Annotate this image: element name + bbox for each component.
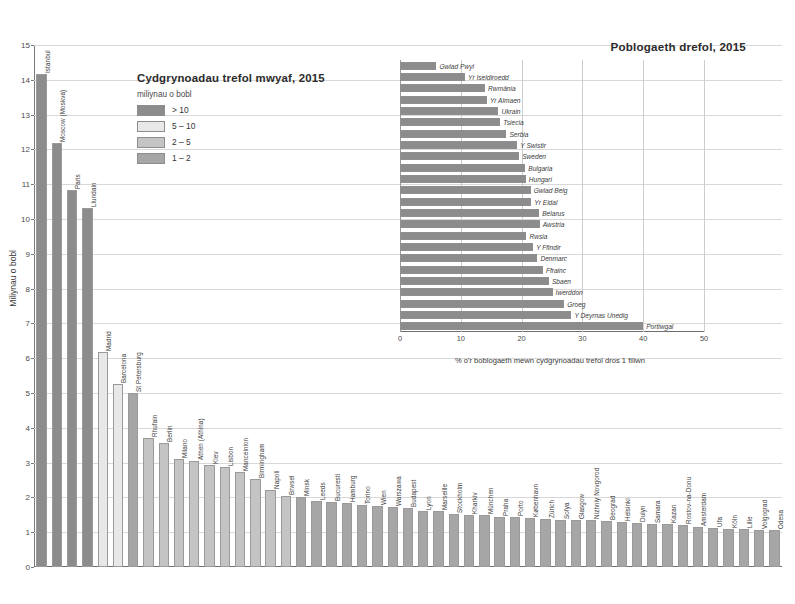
bar-label: Warszawa bbox=[395, 476, 402, 506]
left-chart-y-axis-label: Miliynau o bobl bbox=[8, 250, 18, 307]
bar-label: München bbox=[487, 488, 494, 515]
bar-label: Llundain bbox=[90, 183, 97, 208]
bar-label: Milano bbox=[181, 439, 188, 458]
y-tick-label: 3 bbox=[6, 458, 30, 467]
y-tick-label: 0 bbox=[6, 563, 30, 572]
bar-label: Kharkiv bbox=[471, 492, 478, 514]
bar-label: Istanbul bbox=[44, 50, 51, 73]
bar-label: Porto bbox=[517, 501, 524, 517]
bar bbox=[400, 141, 517, 149]
bar-label: Yr Almaen bbox=[490, 96, 521, 103]
bar-label: Nizhniy Novgorod bbox=[593, 468, 600, 519]
y-tick-label: 14 bbox=[6, 75, 30, 84]
bar bbox=[400, 266, 543, 274]
bar: Athen (Athina) bbox=[189, 461, 199, 567]
bar bbox=[400, 130, 506, 138]
bar bbox=[400, 107, 498, 115]
bar-label: Madrid bbox=[105, 331, 112, 351]
bar-label: Ukrain bbox=[501, 108, 520, 115]
bar: Praha bbox=[494, 517, 504, 567]
bar-label: Amsterdam bbox=[700, 493, 707, 526]
bar bbox=[400, 220, 540, 228]
bar-label: Stockholm bbox=[456, 483, 463, 513]
bar: Amsterdam bbox=[693, 527, 703, 567]
bar-label: Denmarc bbox=[540, 255, 567, 262]
bar-label: Gwlad Belg bbox=[534, 187, 568, 194]
bar-label: Groeg bbox=[567, 300, 585, 307]
gridline bbox=[643, 60, 644, 332]
legend-title: Cydgrynoadau trefol mwyaf, 2015 bbox=[137, 72, 367, 84]
legend-subtitle: miliynau o bobl bbox=[137, 90, 367, 99]
bar: St Petersburg bbox=[128, 393, 138, 567]
bar-label: Sofya bbox=[563, 502, 570, 519]
right-chart-title: Poblogaeth drefol, 2015 bbox=[611, 40, 746, 53]
bar-label: Brwsel bbox=[288, 475, 295, 495]
bar: Nizhniy Novgorod bbox=[586, 520, 596, 567]
bar-label: Praha bbox=[502, 499, 509, 516]
bar bbox=[400, 232, 526, 240]
legend-item-label: 2 – 5 bbox=[172, 137, 191, 147]
bar: Milano bbox=[174, 459, 184, 567]
gridline bbox=[704, 60, 705, 332]
urban-population-bar-chart: Poblogaeth drefol, 2015 01020304050 Gwla… bbox=[398, 40, 788, 340]
bar: København bbox=[525, 518, 535, 567]
bar-label: Wien bbox=[380, 490, 387, 505]
bar-label: Ufa bbox=[716, 517, 723, 527]
bar bbox=[400, 198, 531, 206]
y-tick-label: 4 bbox=[6, 423, 30, 432]
bar bbox=[400, 277, 549, 285]
bar: Zürich bbox=[540, 519, 550, 567]
bar-label: Berlin bbox=[166, 425, 173, 442]
x-tick-label: 20 bbox=[517, 334, 525, 343]
bar: Kazan bbox=[662, 524, 672, 567]
bar-label: Bucuresti bbox=[334, 473, 341, 500]
bar-label: Birmingham bbox=[258, 443, 265, 478]
bar: Rhufain bbox=[143, 438, 153, 567]
bar: Llundain bbox=[82, 208, 92, 567]
legend-swatch bbox=[137, 105, 165, 116]
legend-item: 2 – 5 bbox=[137, 135, 367, 149]
bar-label: Awstria bbox=[543, 221, 565, 228]
x-tick-label: 10 bbox=[457, 334, 465, 343]
bar bbox=[400, 254, 537, 262]
legend-item: > 10 bbox=[137, 103, 367, 117]
bar bbox=[400, 311, 571, 319]
bar-label: Marseille bbox=[441, 484, 448, 510]
y-tick-label: 1 bbox=[6, 528, 30, 537]
bar: Kiev bbox=[204, 465, 214, 567]
bar: Madrid bbox=[98, 352, 108, 567]
bar-label: Kazan bbox=[670, 505, 677, 523]
bar: Köln bbox=[723, 529, 733, 567]
bar: Istanbul bbox=[36, 74, 46, 567]
y-tick-label: 5 bbox=[6, 389, 30, 398]
bar: Berlin bbox=[159, 443, 169, 567]
bar-label: Paris bbox=[74, 174, 81, 189]
bar bbox=[400, 209, 539, 217]
bar-label: Moscow (Moskva) bbox=[59, 90, 66, 142]
bar-label: København bbox=[532, 484, 539, 517]
legend-item: 1 – 2 bbox=[137, 151, 367, 165]
bar: Birmingham bbox=[250, 479, 260, 567]
bar: Stockholm bbox=[449, 514, 459, 567]
bar-label: Y Deyrnas Unedig bbox=[574, 312, 627, 319]
bar: Torino bbox=[357, 505, 367, 567]
x-tick-label: 50 bbox=[700, 334, 708, 343]
bar-label: Yr Iseldiroedd bbox=[468, 74, 509, 81]
bar: Lyon bbox=[418, 511, 428, 567]
bar: Lisbon bbox=[220, 467, 230, 567]
bar-label: Leeds bbox=[319, 482, 326, 500]
bar bbox=[400, 186, 531, 194]
bar-label: Dulyn bbox=[639, 505, 646, 522]
bar-label: Sbaen bbox=[552, 278, 571, 285]
bar: Wien bbox=[372, 506, 382, 567]
bar: Samara bbox=[647, 524, 657, 568]
bar-label: Portiwgal bbox=[646, 323, 673, 330]
x-tick-label: 30 bbox=[578, 334, 586, 343]
y-tick-label: 10 bbox=[6, 215, 30, 224]
right-chart-x-axis-label: % o'r boblogaeth mewn cydgrynoadau trefo… bbox=[398, 356, 702, 365]
bar-label: Y Swistir bbox=[520, 142, 546, 149]
figure-root: Miliynau o bobl 0123456789101112131415 I… bbox=[0, 0, 795, 604]
gridline bbox=[34, 393, 782, 394]
legend-item: 5 – 10 bbox=[137, 119, 367, 133]
bar-label: Beograd bbox=[609, 495, 616, 520]
